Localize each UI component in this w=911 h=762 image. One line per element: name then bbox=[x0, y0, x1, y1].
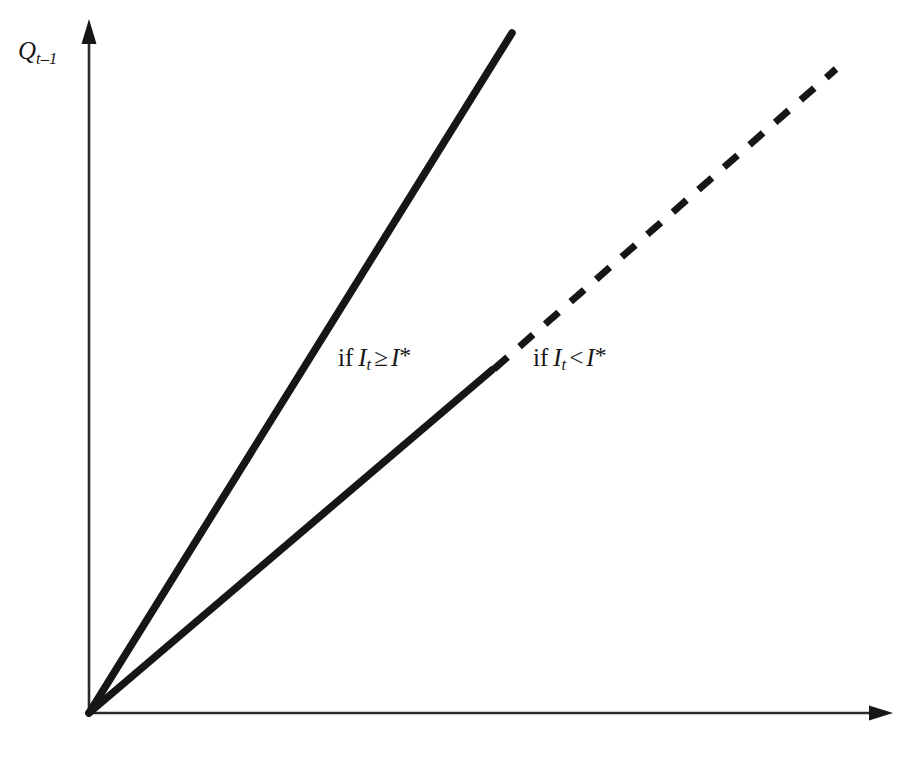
high-regime-operator: ≥ bbox=[371, 344, 391, 371]
high-regime-if-token: if bbox=[338, 344, 358, 371]
y-axis-arrowhead-icon bbox=[82, 19, 97, 44]
y-axis-label: Qt–1 bbox=[18, 38, 57, 67]
y-axis-label-subscript: t–1 bbox=[36, 49, 57, 68]
y-axis-label-variable: Q bbox=[18, 37, 36, 64]
x-axis bbox=[89, 706, 893, 721]
shallow-branch-dashed-line bbox=[494, 69, 836, 369]
low-regime-if-token: if bbox=[533, 344, 553, 371]
low-regime-threshold: I bbox=[586, 344, 594, 371]
low-regime-star: * bbox=[595, 342, 607, 368]
chart-figure: Qt–1 ifIt≥I* ifIt<I* bbox=[0, 0, 911, 762]
low-regime-condition-label: ifIt<I* bbox=[533, 344, 607, 374]
y-axis bbox=[82, 19, 97, 713]
high-regime-variable: I bbox=[358, 344, 366, 371]
steep-branch-line bbox=[89, 33, 512, 713]
low-regime-operator: < bbox=[566, 344, 586, 371]
high-regime-star: * bbox=[399, 342, 411, 368]
x-axis-arrowhead-icon bbox=[869, 706, 893, 721]
chart-canvas bbox=[0, 0, 911, 762]
high-regime-condition-label: ifIt≥I* bbox=[338, 344, 411, 374]
shallow-branch-solid-line bbox=[89, 370, 492, 713]
low-regime-variable: I bbox=[553, 344, 561, 371]
